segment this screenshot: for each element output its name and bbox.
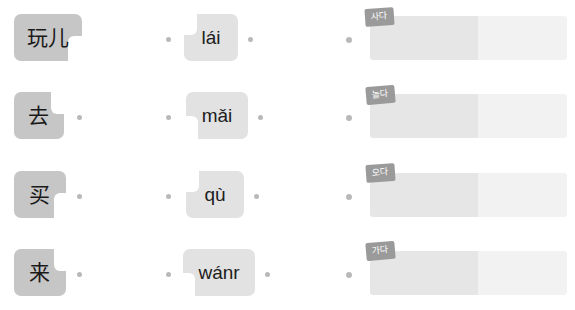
matching-exercise-board: 玩儿 lái 사다 去 mǎi xyxy=(0,0,575,310)
answer-bar-row-1[interactable] xyxy=(370,16,567,60)
answer-bar-empty-segment xyxy=(478,173,567,217)
korean-tag-row-1[interactable]: 사다 xyxy=(364,7,394,27)
connector-dot-mid-left-row-3[interactable] xyxy=(166,194,171,199)
table-row: 去 mǎi 놀다 xyxy=(0,78,575,156)
pinyin-tile-row-4[interactable]: wánr xyxy=(183,249,255,296)
pinyin-tile-row-2[interactable]: mǎi xyxy=(186,92,248,139)
connector-dot-left-row-3[interactable] xyxy=(77,194,82,199)
pinyin-tile-label: mǎi xyxy=(191,106,244,125)
answer-bar-row-3[interactable] xyxy=(370,173,567,217)
answer-bar-empty-segment xyxy=(478,251,567,295)
connector-dot-right-row-3[interactable] xyxy=(346,194,352,200)
chinese-tile-row-2[interactable]: 去 xyxy=(14,92,64,139)
korean-tag-row-2[interactable]: 놀다 xyxy=(365,85,395,105)
pinyin-tile-label: wánr xyxy=(187,263,250,282)
connector-dot-mid-left-row-2[interactable] xyxy=(166,115,171,120)
connector-dot-mid-left-row-4[interactable] xyxy=(166,272,171,277)
korean-tag-row-4[interactable]: 가다 xyxy=(365,241,395,261)
connector-dot-mid-left-row-1[interactable] xyxy=(166,37,171,42)
answer-bar-row-4[interactable] xyxy=(370,251,567,295)
chinese-tile-label: 去 xyxy=(19,105,59,126)
connector-dot-mid-right-row-3[interactable] xyxy=(254,194,259,199)
connector-dot-left-row-4[interactable] xyxy=(77,272,82,277)
answer-bar-empty-segment xyxy=(478,16,567,60)
chinese-tile-row-4[interactable]: 来 xyxy=(14,249,66,296)
korean-tag-row-3[interactable]: 오다 xyxy=(365,163,395,183)
connector-dot-right-row-1[interactable] xyxy=(346,37,352,43)
connector-dot-mid-right-row-1[interactable] xyxy=(248,37,253,42)
chinese-tile-row-3[interactable]: 买 xyxy=(14,171,66,218)
connector-dot-mid-right-row-4[interactable] xyxy=(265,272,270,277)
connector-dot-left-row-2[interactable] xyxy=(77,115,82,120)
chinese-tile-label: 玩儿 xyxy=(18,27,79,48)
table-row: 买 qù 오다 xyxy=(0,157,575,235)
answer-bar-empty-segment xyxy=(478,94,567,138)
connector-dot-mid-right-row-2[interactable] xyxy=(258,115,263,120)
pinyin-tile-label: qù xyxy=(193,185,236,204)
pinyin-tile-label: lái xyxy=(190,28,231,47)
chinese-tile-label: 买 xyxy=(20,184,60,205)
connector-dot-right-row-2[interactable] xyxy=(346,115,352,121)
chinese-tile-label: 来 xyxy=(20,262,60,283)
answer-bar-row-2[interactable] xyxy=(370,94,567,138)
chinese-tile-row-1[interactable]: 玩儿 xyxy=(14,14,82,61)
table-row: 玩儿 lái 사다 xyxy=(0,0,575,78)
connector-dot-right-row-4[interactable] xyxy=(346,272,352,278)
pinyin-tile-row-1[interactable]: lái xyxy=(184,14,238,61)
pinyin-tile-row-3[interactable]: qù xyxy=(186,171,244,218)
table-row: 来 wánr 가다 xyxy=(0,235,575,310)
